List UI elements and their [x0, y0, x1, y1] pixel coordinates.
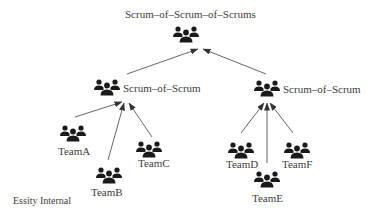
- mid-left-label: Scrum–of–Scrum: [123, 82, 201, 94]
- arrow-mid-left-to-root: [127, 49, 198, 74]
- group-icon-teamB: [96, 167, 122, 183]
- team-label-d: TeamD: [226, 158, 258, 170]
- group-icon-mid-right: [254, 80, 280, 96]
- team-label-c: TeamC: [138, 157, 170, 169]
- team-label-f: TeamF: [282, 158, 312, 170]
- group-icon-teamA: [60, 125, 86, 141]
- team-label-a: TeamA: [58, 145, 90, 157]
- team-label-e: TeamE: [252, 192, 283, 204]
- arrow-teamA-to-mid-left: [75, 102, 122, 117]
- arrow-teamF-to-mid-right: [270, 103, 293, 133]
- group-icon-teamF: [284, 142, 310, 158]
- group-icon-teamD: [228, 142, 254, 158]
- footer-classification: Essity Internal: [13, 195, 71, 207]
- arrow-teamB-to-mid-left: [108, 103, 124, 160]
- arrow-teamD-to-mid-right: [241, 103, 264, 133]
- team-label-b: TeamB: [91, 186, 123, 198]
- group-icon-root: [173, 26, 199, 42]
- group-icon-teamC: [136, 141, 162, 157]
- arrow-teamC-to-mid-left: [129, 103, 152, 137]
- arrow-mid-right-to-root: [203, 49, 266, 74]
- root-label: Scrum–of–Scrum–of–Scrums: [125, 8, 256, 20]
- diagram-canvas: [0, 0, 367, 215]
- group-icon-teamE: [254, 171, 280, 187]
- group-icon-mid-left: [94, 79, 120, 95]
- mid-right-label: Scrum–of–Scrum: [283, 83, 361, 95]
